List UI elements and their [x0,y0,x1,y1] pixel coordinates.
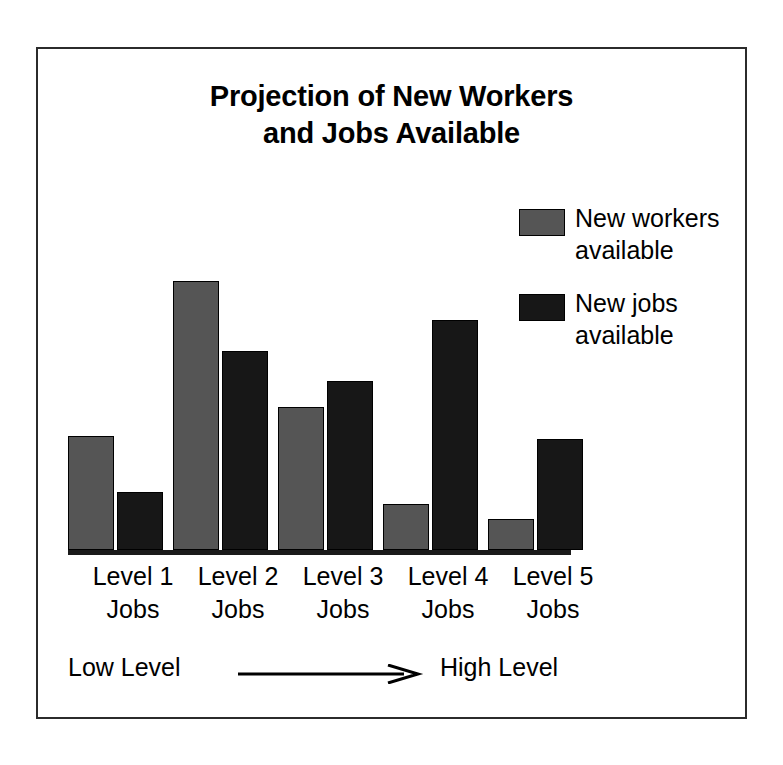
bar-new-jobs [327,381,373,550]
bar-new-workers [173,281,219,550]
bar-new-workers [278,407,324,550]
bar-new-jobs [432,320,478,550]
bar-group [68,274,163,550]
bar-group [173,274,268,550]
chart-title-line-1: Projection of New Workers [36,78,747,115]
x-axis-line [68,550,571,555]
bar-new-jobs [117,492,163,550]
bar-new-workers [68,436,114,550]
legend-item-new-workers: New workers available [519,203,739,266]
bar-group [278,274,373,550]
bar-new-jobs [537,439,583,550]
chart-figure: Projection of New Workers and Jobs Avail… [0,0,783,765]
bar-new-workers [383,504,429,550]
x-axis-label-5: Level 5Jobs [488,560,618,625]
x-axis-label-line: Jobs [488,593,618,626]
low-level-label: Low Level [68,652,181,682]
x-axis-label-line: Level 5 [488,560,618,593]
legend-label-new-jobs: New jobs available [575,288,739,351]
bar-group [488,274,583,550]
plot-area [68,270,573,555]
bar-new-workers [488,519,534,550]
bar-new-jobs [222,351,268,550]
legend-swatch-icon-workers [519,209,565,236]
level-direction-annotation: Low Level High Level [68,652,588,698]
legend-label-new-workers: New workers available [575,203,739,266]
bar-group [383,274,478,550]
x-axis-labels: Level 1JobsLevel 2JobsLevel 3JobsLevel 4… [56,560,596,640]
right-arrow-icon [236,664,424,684]
chart-title-line-2: and Jobs Available [36,115,747,152]
high-level-label: High Level [440,652,558,682]
chart-title: Projection of New Workers and Jobs Avail… [36,78,747,152]
